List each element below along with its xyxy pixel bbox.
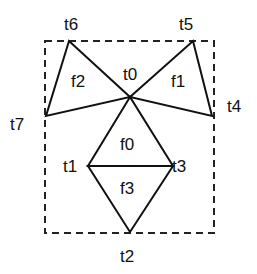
face-f2 (46, 41, 130, 116)
vertex-label-t0: t0 (123, 65, 137, 84)
face-f0 (88, 97, 173, 166)
vertex-label-t4: t4 (227, 97, 241, 116)
mesh-diagram: t0t1t2t3t4t5t6t7 f0f1f2f3 (0, 0, 257, 274)
face-label-f3: f3 (120, 179, 134, 198)
vertex-label-t6: t6 (64, 15, 78, 34)
vertex-label-t2: t2 (120, 247, 134, 266)
vertex-label-t5: t5 (179, 15, 193, 34)
face-f3 (88, 166, 173, 232)
vertex-label-t1: t1 (63, 157, 77, 176)
face-label-f1: f1 (171, 72, 185, 91)
vertex-label-t3: t3 (172, 157, 186, 176)
face-label-f0: f0 (120, 135, 134, 154)
vertex-label-t7: t7 (10, 115, 24, 134)
face-label-f2: f2 (71, 72, 85, 91)
